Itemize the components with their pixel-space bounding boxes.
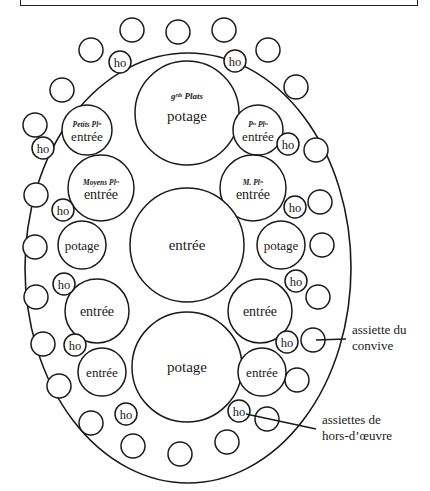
- guest-plate: [304, 138, 328, 162]
- dish-label: entrée: [246, 365, 278, 380]
- leader-line: [316, 339, 346, 340]
- hors-doeuvre-plate: ho: [53, 273, 75, 295]
- dish-label: entrée: [71, 129, 103, 144]
- guest-plate: [79, 38, 103, 62]
- guest-plate: [47, 374, 71, 398]
- guest-plate: [212, 18, 236, 42]
- dish-entree-right-bottom: entrée: [238, 348, 286, 396]
- hors-doeuvre-plate: ho: [276, 331, 298, 353]
- dish-label: entrée: [169, 237, 206, 253]
- dish-label: entrée: [86, 365, 118, 380]
- ho-label: ho: [57, 204, 70, 218]
- guest-plate: [23, 235, 47, 259]
- hors-doeuvre-plate: ho: [109, 51, 131, 73]
- dish-caption: gʳᵈˢ Plats: [170, 91, 203, 101]
- guest-plate: [79, 411, 103, 435]
- annotation-text: assiettes de: [322, 412, 381, 427]
- dish-label: entrée: [242, 129, 274, 144]
- hors-doeuvre-plate: ho: [224, 50, 246, 72]
- guest-plate: [120, 18, 144, 42]
- ho-label: ho: [233, 405, 246, 419]
- guest-plate: [23, 113, 47, 137]
- ho-label: ho: [290, 275, 303, 289]
- dish-caption: Moyens Plᵗˢ: [82, 178, 119, 187]
- dish-petits-plats-left: Petits Plᵗˢentrée: [62, 105, 112, 155]
- annotation-text: assiette du: [352, 322, 407, 337]
- guest-plate: [256, 38, 280, 62]
- guest-plate: [31, 332, 55, 356]
- hors-doeuvre-plate: ho: [115, 403, 137, 425]
- guest-plate: [24, 183, 48, 207]
- guest-plate: [308, 190, 332, 214]
- dish-label: entrée: [236, 187, 270, 202]
- ho-label: ho: [282, 138, 295, 152]
- dish-petits-plats-right: Pᵗˢ Plᵗˢentrée: [233, 105, 283, 155]
- dish-label: entrée: [80, 304, 114, 319]
- hors-doeuvre-plate: ho: [284, 196, 306, 218]
- dish-label: potage: [264, 238, 299, 253]
- guest-plate: [284, 75, 308, 99]
- ho-label: ho: [229, 55, 242, 69]
- ho-label: ho: [289, 201, 302, 215]
- dish-caption: Pᵗˢ Plᵗˢ: [248, 120, 268, 129]
- dish-label: potage: [65, 238, 100, 253]
- ho-label: ho: [120, 408, 133, 422]
- dish-potage-bottom: potage: [132, 312, 242, 422]
- ho-label: ho: [69, 339, 82, 353]
- guest-plate: [215, 430, 239, 454]
- hors-doeuvre-plate: ho: [277, 133, 299, 155]
- dish-moyens-plats-left: Moyens Plᵗˢentrée: [68, 155, 134, 221]
- hors-doeuvre-plate: ho: [32, 137, 54, 159]
- dish-potage-left: potage: [58, 221, 106, 269]
- annotation-text: convive: [352, 338, 393, 353]
- ho-label: ho: [281, 336, 294, 350]
- dish-label: entrée: [84, 187, 118, 202]
- ho-label: ho: [114, 56, 127, 70]
- guest-plate: [121, 434, 145, 458]
- hors-doeuvre-plate: ho: [52, 199, 74, 221]
- hors-doeuvre-plate: ho: [285, 270, 307, 292]
- guest-plate: [50, 78, 74, 102]
- guest-plate: [24, 285, 48, 309]
- dish-center: entrée: [130, 188, 244, 302]
- guest-plate: [310, 233, 334, 257]
- dish-grand-plat-top: gʳᵈˢ Platspotage: [135, 61, 239, 165]
- dish-entree-left-bottom: entrée: [78, 348, 126, 396]
- hors-doeuvre-plate: ho: [64, 334, 86, 356]
- guest-plate: [285, 368, 309, 392]
- dish-label: entrée: [243, 304, 277, 319]
- guest-plate: [168, 442, 192, 466]
- guest-plate: [166, 20, 190, 44]
- table-seating-diagram: gʳᵈˢ PlatspotagePetits PlᵗˢentréePᵗˢ Plᵗ…: [0, 0, 430, 491]
- dish-caption: Petits Plᵗˢ: [73, 120, 102, 129]
- annotation-guest-plate: assiette duconvive: [316, 322, 407, 353]
- dish-label: potage: [167, 359, 207, 375]
- ho-label: ho: [37, 142, 50, 156]
- annotation-text: hors-d’œuvre: [322, 428, 392, 443]
- guest-plate: [306, 285, 330, 309]
- dish-potage-right: potage: [257, 221, 305, 269]
- dish-label: potage: [167, 108, 207, 124]
- hors-doeuvre-plate: ho: [228, 400, 250, 422]
- dish-caption: M. Plᵗˢ: [242, 178, 263, 187]
- ho-label: ho: [58, 278, 71, 292]
